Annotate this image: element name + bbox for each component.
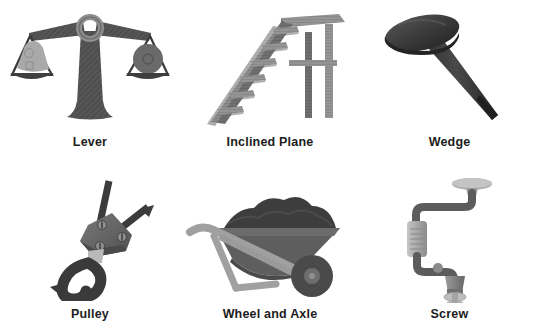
machine-label-pulley: Pulley	[0, 308, 180, 321]
wheel-and-axle-illustration	[180, 176, 360, 308]
machine-label-inclined-plane: Inclined Plane	[180, 136, 360, 149]
machine-label-lever: Lever	[0, 136, 180, 149]
inclined-plane-illustration	[180, 0, 360, 136]
machine-label-screw: Screw	[360, 308, 539, 321]
machine-card-wedge: Wedge	[360, 0, 539, 170]
machine-card-lever: Lever	[0, 0, 180, 170]
wheelbarrow-icon	[184, 186, 356, 298]
hand-drill-auger-icon	[390, 177, 510, 303]
machine-card-inclined-plane: Inclined Plane	[180, 0, 360, 170]
wedge-illustration	[360, 0, 539, 136]
screw-illustration	[360, 172, 539, 308]
nail-icon	[370, 7, 530, 129]
machine-card-wheel-and-axle: Wheel and Axle	[180, 170, 360, 336]
machine-label-wedge: Wedge	[360, 136, 539, 149]
simple-machines-grid: Lever	[0, 0, 539, 336]
pulley-block-hook-icon	[8, 179, 173, 301]
staircase-ramp-icon	[185, 6, 355, 130]
machine-label-wheel-and-axle: Wheel and Axle	[180, 308, 360, 321]
balance-scale-icon	[5, 9, 175, 129]
pulley-illustration	[0, 172, 180, 308]
lever-illustration	[0, 2, 180, 136]
machine-card-pulley: Pulley	[0, 170, 180, 336]
machine-card-screw: Screw	[360, 170, 539, 336]
